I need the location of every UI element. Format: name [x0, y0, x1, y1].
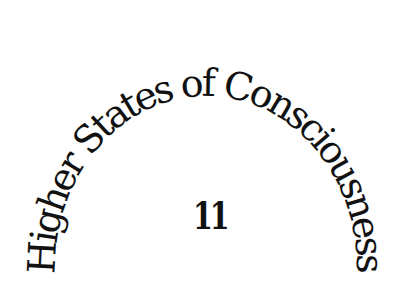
track-number: 11 [193, 193, 223, 238]
arched-title-text: Higher States of Consciousness [19, 61, 392, 275]
arched-title-svg: Higher States of Consciousness [0, 0, 405, 282]
title-card: Higher States of Consciousness 11 [0, 0, 405, 282]
arched-title: Higher States of Consciousness [19, 61, 392, 275]
